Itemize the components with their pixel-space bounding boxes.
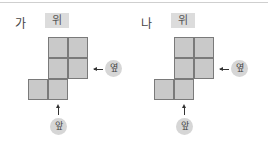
grid-square [174, 79, 194, 100]
grid-square [68, 37, 88, 58]
panel-label: 가 [15, 14, 26, 31]
grid-square [68, 58, 88, 79]
grid-square [194, 37, 214, 58]
panel-label: 나 [141, 14, 152, 31]
side-label: 옆 [105, 60, 122, 77]
side-arrow-icon [94, 69, 103, 70]
grid-square [48, 58, 68, 79]
grid-square [174, 58, 194, 79]
front-arrow-icon [58, 106, 59, 115]
grid-square [154, 79, 174, 100]
panel-na: 나 위 옆 앞 [134, 0, 268, 142]
top-view-label: 위 [45, 13, 69, 28]
side-arrow-icon [220, 69, 229, 70]
grid-square [194, 58, 214, 79]
panel-ga: 가 위 옆 앞 [0, 0, 134, 142]
front-label: 앞 [50, 118, 67, 135]
front-label: 앞 [176, 118, 193, 135]
grid-square [174, 37, 194, 58]
grid-square [28, 79, 48, 100]
grid-square [48, 37, 68, 58]
grid-square [48, 79, 68, 100]
front-arrow-icon [184, 106, 185, 115]
side-label: 옆 [231, 60, 248, 77]
top-view-label: 위 [171, 13, 195, 28]
